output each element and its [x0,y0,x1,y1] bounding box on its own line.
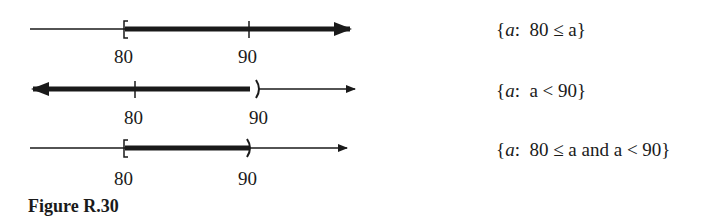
number-line-1 [30,21,350,38]
brace-open: { [496,80,505,101]
brace-open: { [496,19,505,40]
number-line-3 [30,139,347,157]
open-paren-90 [256,80,259,98]
set-var: a [505,19,515,40]
tick-label-90: 90 [238,47,257,66]
colon: : [515,139,520,160]
set-condition: a < 90 [529,80,577,101]
number-line-2 [33,80,355,98]
set-condition: 80 ≤ a [529,19,576,40]
brace-close: } [577,19,586,40]
colon: : [515,19,520,40]
brace-close: } [661,139,670,160]
set-notation-3: {a: 80 ≤ a and a < 90} [496,140,670,159]
set-var: a [505,139,515,160]
tick-label-80: 80 [124,108,143,127]
tick-label-80: 80 [114,47,133,66]
tick-label-80: 80 [114,169,133,188]
set-condition: 80 ≤ a and a < 90 [529,139,661,160]
colon: : [515,80,520,101]
tick-label-90: 90 [249,108,268,127]
number-lines [0,0,717,220]
figure-caption: Figure R.30 [28,196,119,217]
tick-label-90: 90 [238,169,257,188]
brace-open: { [496,139,505,160]
brace-close: } [577,80,586,101]
set-notation-1: {a: 80 ≤ a} [496,20,586,39]
set-notation-2: {a: a < 90} [496,81,586,100]
set-var: a [505,80,515,101]
